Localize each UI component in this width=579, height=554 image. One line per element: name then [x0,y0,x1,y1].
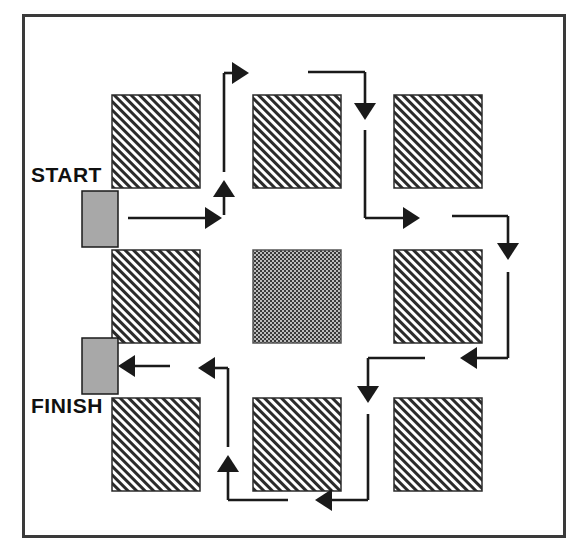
block-top-right [394,95,482,188]
finish-gate [82,338,118,394]
segment-top-right1-arrowhead-icon [232,62,249,84]
segment-mid-left1-arrowhead-icon [460,347,477,369]
block-bottom-center [253,398,341,491]
segment-finish-left1-arrowhead-icon [198,357,215,379]
block-top-left [112,95,200,188]
segment-mid-right1-arrowhead-icon [403,207,420,229]
block-bottom-right [394,398,482,491]
blocks-layer [112,95,482,491]
segment-mid-right1 [365,207,420,229]
path-diagram-svg [0,0,579,554]
block-middle-left [112,250,200,343]
finish-label: FINISH [31,394,103,418]
segment-corridor1-up [213,180,235,215]
block-center [253,250,341,343]
segment-top-right1 [224,62,249,84]
segment-right-down [497,216,519,260]
segment-finish-left2 [118,355,170,377]
segment-corridor2-down-arrowhead-icon [354,103,376,120]
segment-finish-left2-arrowhead-icon [118,355,135,377]
block-middle-right [394,250,482,343]
diagram-canvas: START FINISH [0,0,579,554]
start-gate [82,191,118,247]
segment-right-down-arrowhead-icon [497,243,519,260]
segment-corridor4-up-arrowhead-icon [217,455,239,472]
segment-bottom-left1 [315,489,368,511]
start-label: START [31,163,102,187]
segment-start-right [128,207,222,229]
block-bottom-left [112,398,200,491]
segment-corridor3-down [357,358,379,403]
block-top-center [253,95,341,188]
segment-corridor1-up-arrowhead-icon [213,180,235,197]
segment-corridor3-down-arrowhead-icon [357,386,379,403]
segment-start-right-arrowhead-icon [205,207,222,229]
segment-mid-left1 [460,347,508,369]
segment-corridor4-up [217,455,239,500]
segment-corridor2-down [354,72,376,120]
segment-finish-left1 [198,357,228,379]
segment-bottom-left1-arrowhead-icon [315,489,332,511]
